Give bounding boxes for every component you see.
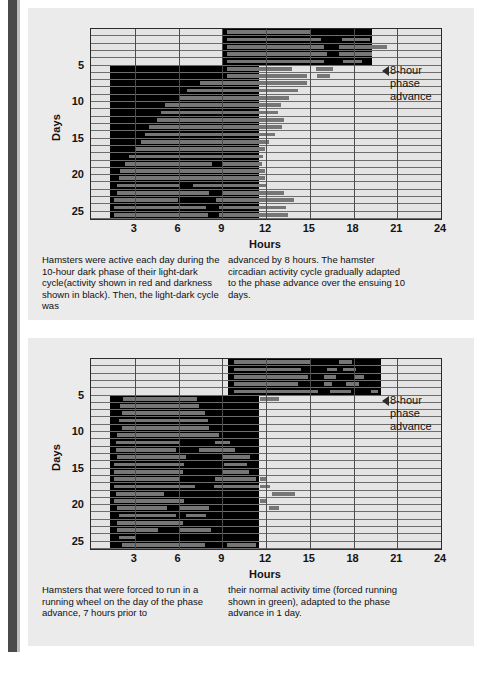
activity-bar — [120, 404, 199, 408]
activity-bar — [145, 133, 275, 137]
annotation-line: phase — [390, 407, 432, 420]
activity-bar — [272, 492, 295, 496]
activity-bar — [342, 38, 370, 42]
x-tick-label: 6 — [167, 552, 189, 564]
x-gridline — [397, 359, 398, 549]
x-tick-label: 18 — [342, 222, 364, 234]
actogram-chart-bottom: 3691215182124Hours510152025Days8-hourpha… — [28, 338, 474, 646]
activity-bar — [119, 419, 208, 423]
activity-bar — [119, 176, 265, 180]
phase-advance-annotation: 8-hourphaseadvance — [382, 64, 432, 103]
plot-area — [90, 28, 442, 220]
x-gridline — [310, 29, 311, 219]
annotation-line: phase — [390, 77, 432, 90]
activity-bar — [222, 191, 283, 195]
y-axis-title: Days — [50, 444, 62, 471]
activity-bar — [119, 536, 135, 540]
x-tick-label: 12 — [254, 552, 276, 564]
x-tick-label: 15 — [298, 552, 320, 564]
activity-bar — [234, 360, 311, 364]
left-spine-shadow — [17, 0, 20, 652]
activity-bar — [117, 455, 186, 459]
panel-caption-left: Hamsters were active each day during the… — [42, 254, 222, 312]
activity-bar — [117, 191, 209, 195]
panel-caption-right: advanced by 8 hours. The hamster circadi… — [228, 254, 408, 300]
activity-bar — [227, 52, 328, 56]
activity-bar — [187, 89, 298, 93]
left-spine-bar — [8, 0, 17, 652]
activity-bar — [222, 162, 261, 166]
activity-bar — [317, 74, 330, 78]
phase-advance-annotation: 8-hourphaseadvance — [382, 394, 432, 433]
y-tick-label: 20 — [60, 168, 84, 180]
activity-bar — [149, 125, 282, 129]
x-tick-label: 12 — [254, 222, 276, 234]
panel-caption-right: their normal activity time (forced runni… — [228, 584, 408, 619]
activity-bar — [193, 184, 267, 188]
y-tick-label: 10 — [60, 95, 84, 107]
activity-bar — [354, 375, 364, 379]
annotation-line: 8-hour — [390, 64, 422, 76]
x-gridline — [310, 359, 311, 549]
activity-bar — [141, 140, 269, 144]
activity-bar — [114, 477, 180, 481]
y-tick-label: 25 — [60, 535, 84, 547]
activity-bar — [224, 463, 247, 467]
activity-bar — [269, 506, 279, 510]
plot-area — [90, 358, 442, 550]
activity-bar — [234, 375, 308, 379]
x-tick-label: 21 — [385, 222, 407, 234]
figure-panel-bottom: 3691215182124Hours510152025Days8-hourpha… — [28, 338, 474, 646]
x-tick-label: 6 — [167, 222, 189, 234]
activity-bar — [116, 492, 164, 496]
activity-bar — [199, 448, 235, 452]
x-gridline — [354, 29, 355, 219]
y-tick-label: 25 — [60, 205, 84, 217]
activity-bar — [324, 375, 336, 379]
x-tick-label: 15 — [298, 222, 320, 234]
activity-bar — [114, 463, 184, 467]
activity-bar — [339, 360, 352, 364]
activity-bar — [227, 30, 310, 34]
activity-bar — [200, 81, 306, 85]
activity-bar — [117, 184, 180, 188]
activity-bar — [116, 448, 176, 452]
activity-bar — [117, 528, 158, 532]
x-gridline — [266, 359, 267, 549]
annotation-line: 8-hour — [390, 394, 422, 406]
x-tick-label: 24 — [429, 552, 451, 564]
x-gridline — [222, 359, 223, 549]
activity-bar — [371, 390, 378, 394]
activity-bar — [114, 213, 207, 217]
x-tick-label: 24 — [429, 222, 451, 234]
activity-bar — [227, 67, 293, 71]
annotation-line: advance — [390, 90, 432, 103]
x-tick-label: 18 — [342, 552, 364, 564]
activity-bar — [316, 67, 334, 71]
y-tick-label: 20 — [60, 498, 84, 510]
y-tick-label: 5 — [60, 59, 84, 71]
activity-bar — [219, 213, 288, 217]
annotation-line: advance — [390, 420, 432, 433]
activity-bar — [227, 38, 322, 42]
x-gridline — [135, 29, 136, 219]
x-gridline — [397, 29, 398, 219]
activity-bar — [327, 368, 337, 372]
y-tick-label: 15 — [60, 462, 84, 474]
y-tick-label: 10 — [60, 425, 84, 437]
x-tick-label: 3 — [123, 552, 145, 564]
x-gridline — [266, 29, 267, 219]
activity-bar — [119, 514, 176, 518]
activity-bar — [216, 198, 293, 202]
activity-bar — [324, 382, 331, 386]
activity-bar — [114, 499, 184, 503]
activity-bar — [330, 390, 350, 394]
panel-caption-left: Hamsters that were forced to run in a ru… — [42, 584, 222, 619]
x-gridline — [135, 359, 136, 549]
activity-bar — [114, 206, 206, 210]
x-tick-label: 9 — [210, 222, 232, 234]
activity-bar — [120, 169, 264, 173]
left-arrow-icon — [382, 396, 389, 406]
y-axis-title: Days — [50, 114, 62, 141]
activity-bar — [179, 528, 211, 532]
